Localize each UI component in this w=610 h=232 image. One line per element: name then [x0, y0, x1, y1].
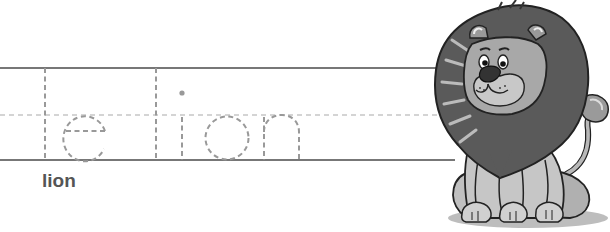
- trace-letter-n: [264, 115, 299, 160]
- guide-lines: [0, 68, 455, 160]
- trace-letter-o: [206, 117, 249, 160]
- tracing-worksheet: lion: [0, 0, 610, 232]
- trace-letter-i-dot: [179, 90, 184, 95]
- word-label: lion: [42, 170, 76, 192]
- trace-letter-e: [63, 116, 105, 161]
- lion-illustration: [435, 0, 608, 228]
- handwriting-guide: [0, 0, 610, 232]
